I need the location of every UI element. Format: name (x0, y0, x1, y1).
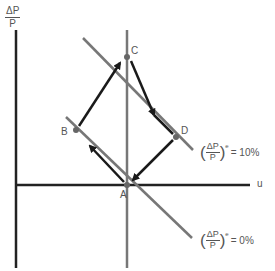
y-axis-label: ΔP P (5, 6, 20, 29)
curve-label-0pct-sup: e (225, 231, 228, 237)
arrow-c-to-d (131, 61, 154, 115)
arrow-d-to-a (133, 140, 173, 180)
y-axis-label-numerator: ΔP (5, 6, 20, 18)
x-axis-label: u (257, 179, 263, 189)
point-d (173, 134, 179, 140)
point-c (124, 54, 130, 60)
short-run-curve-0pct (66, 117, 192, 238)
curve-label-0pct-den: P (210, 241, 216, 250)
arrow-c-to-d-segment (154, 115, 173, 134)
curve-label-10pct: ( ΔP P ) e = 10% (200, 142, 259, 162)
point-b (73, 127, 79, 133)
y-axis-label-denominator: P (9, 18, 16, 29)
curve-label-10pct-den: P (210, 153, 216, 162)
curve-label-10pct-value: = 10% (231, 147, 260, 158)
curve-label-0pct: ( ΔP P ) e = 0% (200, 230, 254, 250)
curve-label-0pct-value: = 0% (231, 235, 254, 246)
point-b-label: B (61, 127, 68, 137)
arrow-a-to-b (90, 146, 124, 182)
point-a (124, 182, 130, 188)
point-d-label: D (181, 126, 188, 136)
arrow-b-to-c (79, 63, 120, 126)
point-c-label: C (131, 46, 138, 56)
point-a-label: A (120, 190, 127, 200)
curve-label-10pct-sup: e (225, 143, 228, 149)
